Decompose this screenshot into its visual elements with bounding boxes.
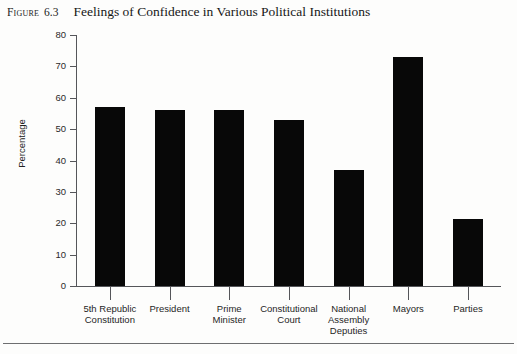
x-axis-tick: [468, 287, 469, 300]
x-axis-tick-label-line: Assembly: [306, 314, 392, 325]
figure-number: 6.3: [44, 6, 58, 18]
x-axis-tick: [289, 287, 290, 300]
x-axis-tick-label-line: Deputies: [306, 325, 392, 336]
bar: [274, 120, 304, 286]
x-axis-tick-label: Parties: [425, 303, 511, 314]
x-axis-tick: [170, 287, 171, 300]
bar-chart: 01020304050607080 Percentage 5th Republi…: [0, 26, 517, 326]
figure-caption: Figure 6.3 Feelings of Confidence in Var…: [7, 2, 507, 22]
bar-series: [0, 26, 517, 326]
bar: [334, 170, 364, 286]
x-axis-tick: [408, 287, 409, 300]
x-axis-tick: [110, 287, 111, 300]
x-axis-tick-label-line: Parties: [425, 303, 511, 314]
bar: [393, 57, 423, 286]
x-axis-tick-label-line: Constitution: [67, 314, 153, 325]
bar: [155, 110, 185, 286]
figure-page: Figure 6.3 Feelings of Confidence in Var…: [0, 0, 517, 354]
bottom-rule: [3, 343, 514, 344]
figure-label: Figure: [7, 6, 39, 18]
bar: [453, 219, 483, 286]
x-axis-tick: [349, 287, 350, 300]
x-axis-tick: [229, 287, 230, 300]
bar: [95, 107, 125, 286]
bar: [214, 110, 244, 286]
figure-title: Feelings of Confidence in Various Politi…: [73, 4, 370, 19]
